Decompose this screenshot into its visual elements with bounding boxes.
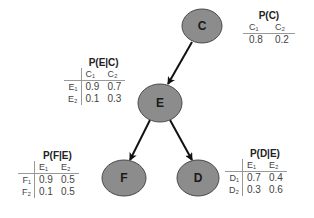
- node-c: C: [182, 9, 222, 43]
- cpt-title: P(C): [243, 10, 295, 21]
- edge-e-to-f: [130, 120, 150, 160]
- row-label: F₁: [18, 174, 35, 187]
- cpt-value: 0.1: [81, 93, 103, 105]
- cpt-value: 0.6: [265, 184, 287, 196]
- cpt-title: P(E|C): [64, 57, 125, 68]
- node-f: F: [102, 160, 146, 196]
- cpt-value: 0.3: [103, 93, 125, 105]
- row-label: D₁: [225, 172, 243, 185]
- node-e-label: E: [156, 96, 164, 110]
- row-label: D₂: [225, 184, 243, 196]
- cpt-p-e-given-c: P(E|C) C₁ C₂ E₁ 0.9 0.7 E₂ 0.1 0.3: [64, 57, 125, 105]
- cpt-p-d-given-e: P(D|E) E₁ E₂ D₁ 0.7 0.4 D₂ 0.3 0.6: [225, 148, 287, 196]
- col-header: E₂: [57, 161, 79, 174]
- node-e: E: [138, 84, 182, 122]
- node-d-label: D: [194, 171, 203, 185]
- edge-e-to-d: [170, 120, 192, 160]
- cpt-title: P(F|E): [18, 150, 79, 161]
- cpt-value: 0.3: [243, 184, 265, 196]
- col-header: E₁: [35, 161, 57, 174]
- cpt-value: 0.5: [57, 186, 79, 198]
- cpt-p-f-given-e: P(F|E) E₁ E₂ F₁ 0.9 0.5 F₂ 0.1 0.5: [18, 150, 79, 198]
- edge-c-to-e: [168, 42, 192, 84]
- cpt-value: 0.9: [81, 81, 103, 94]
- col-header: E₂: [265, 159, 287, 172]
- cpt-value: 0.4: [265, 172, 287, 185]
- cpt-p-c: P(C) C₁ C₂ 0.8 0.2: [243, 10, 295, 46]
- cpt-value: 0.1: [35, 186, 57, 198]
- node-d: D: [177, 160, 219, 196]
- col-header: C₂: [103, 68, 125, 81]
- cpt-title: P(D|E): [225, 148, 287, 159]
- node-f-label: F: [120, 171, 127, 185]
- col-header: E₁: [243, 159, 265, 172]
- row-label: F₂: [18, 186, 35, 198]
- col-header: C₁: [81, 68, 103, 81]
- cpt-value: 0.7: [243, 172, 265, 185]
- cpt-value: 0.8: [243, 34, 269, 47]
- cpt-value: 0.2: [269, 34, 295, 47]
- cpt-value: 0.5: [57, 174, 79, 187]
- row-label: E₁: [64, 81, 81, 94]
- row-label: E₂: [64, 93, 81, 105]
- col-header: C₂: [269, 21, 295, 34]
- cpt-value: 0.9: [35, 174, 57, 187]
- cpt-value: 0.7: [103, 81, 125, 94]
- col-header: C₁: [243, 21, 269, 34]
- node-c-label: C: [198, 19, 207, 33]
